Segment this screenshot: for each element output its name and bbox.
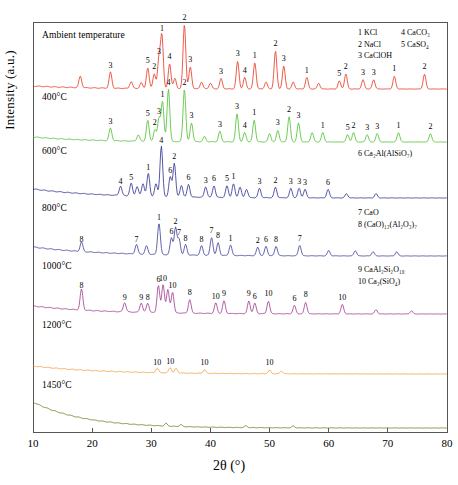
peak-label: 6 bbox=[250, 293, 260, 301]
peak-label: 1 bbox=[250, 52, 260, 60]
x-tick-label-10: 10 bbox=[21, 437, 45, 449]
peak-label: 5 bbox=[334, 70, 344, 78]
panel-label-400-c: 400°C bbox=[42, 92, 67, 102]
peak-label: 2 bbox=[149, 63, 159, 71]
peak-label: 8 bbox=[185, 289, 195, 297]
legend-entry: 7 CaO bbox=[358, 207, 417, 219]
peak-label: 1 bbox=[249, 109, 259, 117]
peak-label: 6 bbox=[209, 175, 219, 183]
peak-label: 6 bbox=[165, 167, 175, 175]
peak-label: 3 bbox=[279, 55, 289, 63]
x-tick-label-30: 30 bbox=[139, 437, 163, 449]
peak-label: 8 bbox=[271, 236, 281, 244]
legend-entry bbox=[401, 50, 430, 62]
panel-label-1000-c: 1000°C bbox=[42, 261, 72, 271]
legend-group-1: 1 KCl4 CaCO₃2 NaCl5 CaSO₄3 CaClOH bbox=[358, 27, 430, 62]
peak-label: 4 bbox=[240, 67, 250, 75]
peak-label: 6 bbox=[289, 295, 299, 303]
peak-label: 3 bbox=[154, 48, 164, 56]
peak-label: 7 bbox=[295, 235, 305, 243]
peak-label: 10 bbox=[166, 282, 180, 290]
peak-label: 3 bbox=[232, 103, 242, 111]
peak-label: 6 bbox=[184, 174, 194, 182]
peak-label: 3 bbox=[273, 119, 283, 127]
peak-label: 2 bbox=[270, 40, 280, 48]
legend-group-2: 6 Ca₂Al(AlSiO₇) bbox=[358, 148, 412, 160]
peak-label: 3 bbox=[255, 178, 265, 186]
peak-label: 2 bbox=[425, 123, 435, 131]
peak-label: 10 bbox=[150, 359, 164, 367]
peak-label: 8 bbox=[143, 294, 153, 302]
peak-label: 1 bbox=[158, 91, 168, 99]
xrd-trace-400-c bbox=[33, 89, 447, 142]
x-tick-label-50: 50 bbox=[258, 437, 282, 449]
peak-label: 3 bbox=[362, 124, 372, 132]
peak-label: 4 bbox=[116, 178, 126, 186]
peak-label: 1 bbox=[394, 122, 404, 130]
xrd-trace-1450-c bbox=[33, 402, 447, 428]
x-tick-label-20: 20 bbox=[80, 437, 104, 449]
legend-grid: 1 KCl4 CaCO₃2 NaCl5 CaSO₄3 CaClOH bbox=[358, 27, 430, 62]
peak-label: 1 bbox=[154, 214, 164, 222]
legend-entry: 4 CaCO₃ bbox=[401, 27, 430, 39]
peak-label: 6 bbox=[323, 179, 333, 187]
peak-label: 10 bbox=[263, 359, 277, 367]
peak-label: 5 bbox=[143, 110, 153, 118]
peak-label: 1 bbox=[318, 122, 328, 130]
peak-label: 3 bbox=[372, 123, 382, 131]
peak-label: 7 bbox=[132, 236, 142, 244]
peak-label: 3 bbox=[369, 69, 379, 77]
y-axis-label: Intensity (a.u.) bbox=[2, 10, 18, 170]
peak-label: 8 bbox=[181, 235, 191, 243]
peak-label: 1 bbox=[228, 173, 238, 181]
panel-label-600-c: 600°C bbox=[42, 146, 67, 156]
peak-label: 2 bbox=[341, 63, 351, 71]
peak-label: 3 bbox=[215, 121, 225, 129]
xrd-trace-1000-c bbox=[33, 285, 447, 314]
peak-label: 1 bbox=[389, 65, 399, 73]
peak-label: 3 bbox=[185, 56, 195, 64]
legend-entry: 6 Ca₂Al(AlSiO₇) bbox=[358, 148, 412, 160]
peak-label: 2 bbox=[270, 177, 280, 185]
peak-label: 8 bbox=[197, 236, 207, 244]
peak-label: 9 bbox=[219, 290, 229, 298]
panel-label-800-c: 800°C bbox=[42, 203, 67, 213]
peak-label: 10 bbox=[198, 359, 212, 367]
peak-label: 5 bbox=[126, 174, 136, 182]
legend-entry: 9 CaAl₂Si₂O₁₈ bbox=[358, 264, 405, 276]
peak-label: 3 bbox=[105, 62, 115, 70]
peak-label: 3 bbox=[300, 179, 310, 187]
peak-label: 4 bbox=[240, 122, 250, 130]
legend-entry: 10 Ca₂(SiO₄) bbox=[358, 276, 405, 288]
x-tick-label-80: 80 bbox=[435, 437, 458, 449]
peak-label: 2 bbox=[179, 79, 189, 87]
peak-label: 3 bbox=[216, 68, 226, 76]
peak-label: 2 bbox=[179, 14, 189, 22]
peak-label: 2 bbox=[150, 119, 160, 127]
peak-label: 1 bbox=[226, 235, 236, 243]
peak-label: 8 bbox=[76, 282, 86, 290]
peak-label: 3 bbox=[358, 69, 368, 77]
x-tick-label-40: 40 bbox=[198, 437, 222, 449]
xrd-figure: Intensity (a.u.) 1020304050607080 2θ (°)… bbox=[0, 0, 458, 485]
peak-label: 4 bbox=[165, 53, 175, 61]
peak-label: 10 bbox=[335, 294, 349, 302]
panel-label-ambient-temperature: Ambient temperature bbox=[42, 30, 125, 40]
peak-label: 8 bbox=[76, 236, 86, 244]
x-axis-label: 2θ (°) bbox=[0, 458, 458, 474]
peak-label: 10 bbox=[261, 290, 275, 298]
peak-label: 3 bbox=[233, 50, 243, 58]
peak-label: 4 bbox=[163, 79, 173, 87]
legend-entry: 8 (CaO)₁₂(Al₂O₃)₇ bbox=[358, 219, 417, 231]
legend-group-3: 7 CaO8 (CaO)₁₂(Al₂O₃)₇ bbox=[358, 207, 417, 230]
peak-label: 8 bbox=[213, 232, 223, 240]
peak-label: 6 bbox=[261, 236, 271, 244]
peak-label: 4 bbox=[156, 137, 166, 145]
peak-label: 8 bbox=[301, 291, 311, 299]
peak-label: 3 bbox=[294, 112, 304, 120]
peak-label: 9 bbox=[120, 294, 130, 302]
peak-label: 2 bbox=[171, 218, 181, 226]
peak-label: 3 bbox=[187, 112, 197, 120]
xrd-trace-1200-c bbox=[33, 366, 447, 374]
peak-label: 1 bbox=[143, 164, 153, 172]
